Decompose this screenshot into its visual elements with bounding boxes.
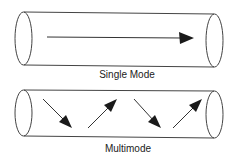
multimode-right-end: [206, 91, 223, 138]
single-mode-arrowhead: [179, 32, 194, 44]
multimode-ray-2: [88, 99, 117, 128]
multimode-ray-1: [43, 99, 72, 128]
single-mode-right-end: [206, 14, 223, 67]
single-mode-tube-bottom: [24, 65, 214, 67]
single-mode-label: Single Mode: [99, 69, 155, 80]
single-mode-fiber: [15, 12, 223, 67]
multimode-tube-bottom: [24, 136, 214, 138]
single-mode-tube-top: [24, 12, 214, 14]
multimode-ray-3: [134, 99, 161, 128]
single-mode-ray: [47, 37, 182, 38]
multimode-ray-4: [173, 99, 202, 128]
multimode-fiber: [15, 90, 223, 138]
multimode-left-end: [15, 90, 32, 136]
multimode-tube-top: [24, 90, 214, 91]
fiber-mode-diagram: Single Mode Multimode: [0, 0, 233, 156]
multimode-label: Multimode: [105, 143, 152, 154]
single-mode-left-end: [15, 12, 32, 65]
